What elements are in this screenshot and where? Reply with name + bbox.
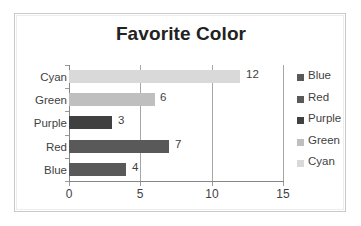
bar-row: 3: [69, 111, 283, 134]
bar-row: 4: [69, 158, 283, 181]
clipped-text: · · · · ·: [6, 0, 47, 2]
legend-swatch-icon: [297, 139, 304, 146]
bar-value-red: 7: [175, 138, 181, 150]
clipped-text-strip: · · · · ·: [0, 0, 361, 10]
legend-swatch-icon: [297, 160, 304, 167]
bar-green[interactable]: [69, 93, 155, 106]
legend-swatch-icon: [297, 74, 304, 81]
legend-label-green: Green: [308, 134, 340, 146]
x-axis-tick-label-0: 0: [54, 187, 84, 201]
y-axis-label-blue: Blue: [19, 164, 67, 176]
legend-item-red[interactable]: Red: [297, 91, 345, 113]
legend-swatch-icon: [297, 117, 304, 124]
chart-frame: Favorite Color Cyan Green Purple Red Blu…: [14, 13, 346, 212]
x-axis-tick: [69, 182, 70, 186]
y-axis-label-green: Green: [19, 94, 67, 106]
x-axis-line: [69, 181, 284, 182]
bar-value-green: 6: [160, 91, 166, 103]
legend-label-cyan: Cyan: [308, 155, 335, 167]
bar-value-cyan: 12: [246, 68, 259, 80]
legend-label-purple: Purple: [308, 112, 341, 124]
bar-value-blue: 4: [132, 161, 138, 173]
chart-title: Favorite Color: [15, 23, 347, 45]
legend-item-cyan[interactable]: Cyan: [297, 155, 345, 177]
x-axis-tick: [140, 182, 141, 186]
x-axis-tick: [212, 182, 213, 186]
legend-item-purple[interactable]: Purple: [297, 112, 345, 134]
bar-value-purple: 3: [118, 114, 124, 126]
gridline-15: [283, 65, 284, 181]
x-axis-tick-label-10: 10: [197, 187, 227, 201]
legend-label-blue: Blue: [308, 69, 331, 81]
bar-red[interactable]: [69, 140, 169, 153]
legend-swatch-icon: [297, 96, 304, 103]
bar-purple[interactable]: [69, 116, 112, 129]
bar-blue[interactable]: [69, 163, 126, 176]
x-axis-tick-label-15: 15: [268, 187, 298, 201]
y-axis-label-red: Red: [19, 141, 67, 153]
x-axis-tick-label-5: 5: [125, 187, 155, 201]
bar-row: 7: [69, 135, 283, 158]
legend-item-green[interactable]: Green: [297, 134, 345, 156]
y-axis-label-purple: Purple: [19, 117, 67, 129]
chart-legend: Blue Red Purple Green Cyan: [297, 69, 345, 177]
bar-cyan[interactable]: [69, 70, 240, 83]
legend-label-red: Red: [308, 91, 329, 103]
x-axis-tick: [283, 182, 284, 186]
bar-row: 6: [69, 88, 283, 111]
plot-area: 12 6 3 7 4: [69, 65, 283, 181]
legend-item-blue[interactable]: Blue: [297, 69, 345, 91]
y-axis-label-cyan: Cyan: [19, 71, 67, 83]
bar-row: 12: [69, 65, 283, 88]
